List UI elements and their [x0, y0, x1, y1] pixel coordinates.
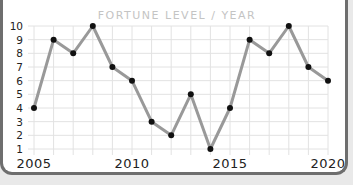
data-point-marker: [149, 119, 155, 125]
y-tick-label: 10: [10, 20, 23, 32]
data-point-marker: [207, 146, 213, 152]
data-point-marker: [247, 37, 253, 43]
y-axis-ticks: 12345678910: [10, 20, 24, 155]
y-tick-label: 2: [16, 129, 23, 141]
data-point-marker: [188, 91, 194, 97]
y-tick-label: 4: [16, 102, 23, 114]
data-point-marker: [266, 50, 272, 56]
x-tick-label: 2015: [212, 156, 247, 171]
data-point-marker: [129, 78, 135, 84]
chart-title: FORTUNE LEVEL / YEAR: [98, 9, 257, 22]
y-tick-label: 1: [16, 143, 23, 155]
data-point-marker: [70, 50, 76, 56]
x-axis-ticks: 2005201020152020: [16, 156, 345, 171]
y-tick-label: 7: [16, 61, 23, 73]
y-tick-label: 6: [16, 75, 23, 87]
x-tick-label: 2005: [16, 156, 51, 171]
x-tick-label: 2020: [310, 156, 345, 171]
grid: [28, 26, 328, 155]
y-tick-label: 8: [16, 47, 23, 59]
data-line: [34, 26, 328, 149]
data-point-marker: [109, 64, 115, 70]
x-tick-label: 2010: [114, 156, 149, 171]
line-chart: FORTUNE LEVEL / YEAR 12345678910 2005201…: [0, 0, 353, 185]
data-point-marker: [227, 105, 233, 111]
data-point-marker: [51, 37, 57, 43]
data-point-marker: [325, 78, 331, 84]
y-tick-label: 3: [16, 116, 23, 128]
data-point-marker: [305, 64, 311, 70]
data-point-marker: [286, 23, 292, 29]
data-point-marker: [31, 105, 37, 111]
data-point-marker: [90, 23, 96, 29]
y-tick-label: 9: [16, 34, 23, 46]
data-point-marker: [168, 132, 174, 138]
data-points: [31, 23, 331, 152]
y-tick-label: 5: [16, 88, 23, 100]
